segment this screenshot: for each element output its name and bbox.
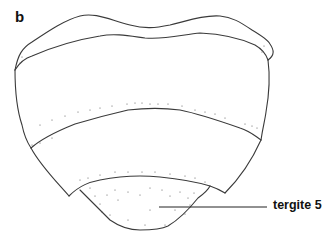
seta-dot bbox=[187, 197, 188, 198]
seta-dot bbox=[214, 113, 215, 114]
seta-dot bbox=[101, 211, 102, 212]
seta-dot bbox=[39, 124, 40, 125]
seta-dot bbox=[134, 102, 135, 103]
seta-dot bbox=[114, 171, 115, 172]
seta-dot bbox=[179, 191, 180, 192]
segment-4-left-margin bbox=[31, 148, 69, 196]
seta-dot bbox=[127, 219, 128, 220]
seta-dot bbox=[127, 191, 128, 192]
anterior-segment-inner-margin bbox=[15, 33, 268, 70]
right-lateral-margin bbox=[261, 60, 269, 140]
seta-dot bbox=[204, 181, 205, 182]
seta-dot bbox=[169, 173, 170, 174]
seta-dot bbox=[31, 144, 32, 145]
seta-dot bbox=[144, 224, 145, 225]
seta-dot bbox=[181, 105, 182, 106]
seta-dot bbox=[194, 177, 195, 178]
segment-margin-4 bbox=[69, 176, 225, 196]
seta-dot bbox=[149, 187, 150, 188]
seta-dot bbox=[263, 45, 264, 46]
segment-margin-3 bbox=[31, 109, 261, 149]
seta-dot bbox=[117, 199, 118, 200]
seta-dot bbox=[39, 142, 40, 143]
seta-dot bbox=[224, 117, 225, 118]
seta-dot bbox=[114, 189, 115, 190]
setae-dots bbox=[19, 45, 264, 225]
panel-letter: b bbox=[15, 8, 24, 25]
seta-dot bbox=[184, 175, 185, 176]
seta-dot bbox=[109, 214, 110, 215]
seta-dot bbox=[99, 203, 100, 204]
seta-dot bbox=[184, 213, 185, 214]
seta-dot bbox=[51, 119, 52, 120]
seta-dot bbox=[149, 103, 150, 104]
seta-dot bbox=[174, 209, 175, 210]
seta-dot bbox=[19, 62, 20, 63]
seta-dot bbox=[89, 187, 90, 188]
seta-dot bbox=[77, 111, 78, 112]
seta-dot bbox=[161, 189, 162, 190]
seta-dot bbox=[141, 171, 142, 172]
seta-dot bbox=[87, 177, 88, 178]
seta-dot bbox=[154, 171, 155, 172]
tergite-5-label: tergite 5 bbox=[273, 198, 322, 212]
tergite-5-outline bbox=[80, 186, 210, 230]
seta-dot bbox=[79, 179, 80, 180]
seta-dot bbox=[244, 123, 245, 124]
seta-dot bbox=[106, 194, 107, 195]
seta-dot bbox=[189, 204, 190, 205]
seta-dot bbox=[169, 195, 170, 196]
seta-dot bbox=[194, 109, 195, 110]
seta-dot bbox=[99, 107, 100, 108]
seta-dot bbox=[251, 125, 252, 126]
seta-dot bbox=[204, 111, 205, 112]
seta-dot bbox=[141, 102, 142, 103]
seta-dot bbox=[51, 137, 52, 138]
anterior-segment-outer-margin bbox=[15, 15, 273, 70]
seta-dot bbox=[64, 115, 65, 116]
seta-dot bbox=[157, 103, 158, 104]
seta-dot bbox=[167, 103, 168, 104]
seta-dot bbox=[139, 194, 140, 195]
seta-dot bbox=[99, 174, 100, 175]
seta-dot bbox=[21, 56, 22, 57]
left-lateral-margin bbox=[15, 70, 31, 148]
seta-dot bbox=[127, 171, 128, 172]
seta-dot bbox=[256, 127, 257, 128]
seta-dot bbox=[193, 192, 194, 193]
seta-dot bbox=[94, 195, 95, 196]
seta-dot bbox=[111, 105, 112, 106]
seta-dot bbox=[261, 51, 262, 52]
seta-dot bbox=[126, 103, 127, 104]
seta-dot bbox=[149, 209, 150, 210]
segment-4-right-margin bbox=[225, 140, 261, 193]
seta-dot bbox=[89, 109, 90, 110]
seta-dot bbox=[164, 224, 165, 225]
